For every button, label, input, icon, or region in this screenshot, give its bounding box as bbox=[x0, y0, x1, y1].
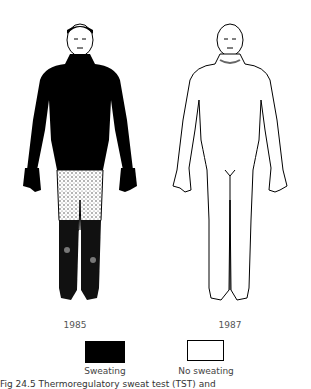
body-figure-1985 bbox=[15, 20, 145, 310]
year-label-1985: 1985 bbox=[45, 320, 105, 330]
year-label-1987: 1987 bbox=[200, 320, 260, 330]
legend-label-sweating: Sweating bbox=[65, 366, 145, 376]
legend-swatch-no-sweating bbox=[187, 340, 224, 361]
legend-swatch-sweating bbox=[85, 341, 125, 363]
body-figure-1987 bbox=[165, 20, 295, 310]
legend-label-no-sweating: No sweating bbox=[166, 366, 246, 376]
figure-caption: Fig 24.5 Thermoregulatory sweat test (TS… bbox=[0, 379, 311, 389]
